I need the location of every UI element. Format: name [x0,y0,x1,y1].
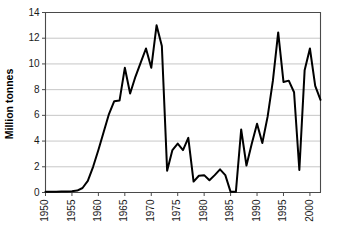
x-tick-label: 1955 [66,199,77,222]
y-axis-title: Million tonnes [3,69,15,140]
y-tick-label: 14 [28,7,40,18]
y-tick-label: 2 [34,161,40,172]
x-tick-label: 2000 [304,199,315,222]
x-tick-label: 1965 [118,199,129,222]
x-tick-label: 1985 [224,199,235,222]
x-tick-label: 1950 [39,199,50,222]
x-tick-label: 1960 [92,199,103,222]
line-chart: 02468101214 1950195519601965197019751980… [0,0,338,240]
y-tick-label: 4 [34,135,40,146]
y-tick-label: 12 [28,32,40,43]
y-tick-label: 0 [34,187,40,198]
x-tick-label: 1975 [171,199,182,222]
y-tick-label: 8 [34,84,40,95]
x-tick-label: 1970 [145,199,156,222]
y-tick-label: 10 [28,58,40,69]
chart-container: 02468101214 1950195519601965197019751980… [0,0,338,240]
x-tick-label: 1990 [251,199,262,222]
y-tick-label: 6 [34,109,40,120]
x-tick-label: 1980 [198,199,209,222]
x-tick-label: 1995 [277,199,288,222]
